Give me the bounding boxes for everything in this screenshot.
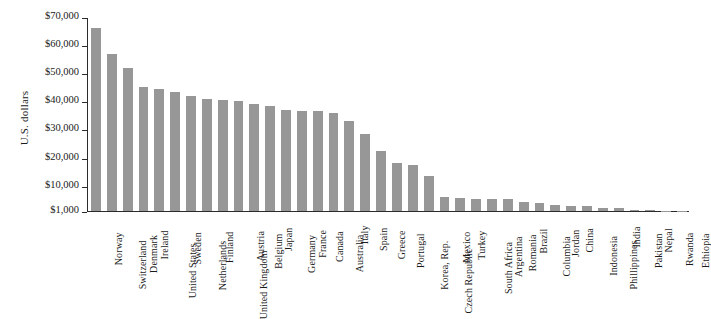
bar [392,163,402,211]
x-axis-label-text: Argentina [513,236,524,277]
y-axis-tick-label: $30,000 [45,122,79,133]
x-axis-label-text: Canada [334,231,345,262]
bar [91,28,101,211]
plot-area: $1,000$10,000$20,000$30,000$40,000$50,00… [87,18,689,212]
bar [471,199,481,211]
y-axis-tick-mark [82,102,87,103]
bar [519,202,529,211]
y-axis-tick-mark [82,74,87,75]
bar [329,113,339,211]
x-axis-label-text: Rwanda [684,233,695,266]
bar [218,100,228,211]
x-axis-label-text: Phillippines [628,240,639,289]
x-axis-label-text: Korea, Rep. [438,241,449,290]
bar [376,151,386,211]
bar [154,89,164,211]
x-axis-label-text: Germany [306,235,317,273]
x-axis-label-text: Norway [113,232,124,265]
y-axis-tick-mark [82,18,87,19]
bar [566,206,576,211]
y-axis-tick-label: $50,000 [45,66,79,77]
x-axis-label-text: Greece [397,230,408,259]
x-axis-label-text: Ireland [159,231,170,260]
bar [550,205,560,211]
x-axis-label-text: Brazil [537,229,548,254]
x-axis-label-text: Spain [378,228,389,251]
x-axis-labels: NorwaySwitzerlandDenmarkIrelandUnited St… [88,214,690,308]
bar [170,92,180,211]
y-axis-title: U.S. dollars [18,0,36,60]
y-axis-tick-label: $40,000 [45,94,79,105]
x-axis-label-text: Japan [283,228,294,251]
x-axis-label-text: Jordan [570,230,581,257]
bar [344,121,354,211]
x-axis-label-text: Indonesia [608,236,619,276]
bar [297,111,307,211]
y-axis-tick-mark [82,46,87,47]
y-axis-tick-mark [82,130,87,131]
bar [645,210,655,211]
bar [249,104,259,211]
bar [186,96,196,211]
bar [234,101,244,211]
y-axis-tick-label: $70,000 [45,10,79,21]
bar [139,87,149,211]
x-axis-label-text: Denmark [148,235,159,273]
y-axis-tick-mark [82,187,87,188]
x-axis-label-text: Finland [223,232,234,263]
y-axis-title-label: U.S. dollars [18,58,30,178]
x-axis-line [87,211,689,212]
bar [503,199,513,211]
x-axis-label-text: Ethiopia [700,233,711,268]
bar [677,211,687,212]
bar [614,208,624,211]
bar [424,176,434,211]
x-axis-label-text: Switzerland [137,240,148,289]
x-axis-label-text: Mexico [461,232,472,263]
bar [440,197,450,211]
bar [535,203,545,211]
bar [313,111,323,211]
bar [598,208,608,211]
x-axis-label-text: India [630,227,641,248]
bar [582,206,592,211]
bar [107,54,117,211]
bar [487,199,497,211]
y-axis-tick-label: $1,000 [50,204,79,215]
bar [455,198,465,211]
x-axis-label-text: Sweden [192,232,203,264]
bar [281,110,291,211]
bar [408,165,418,211]
y-axis-tick-label: $20,000 [45,151,79,162]
x-axis-label-text: China [584,228,595,252]
y-axis-tick-mark [82,159,87,160]
x-axis-label-text: Nepal [664,228,675,252]
bar [661,211,671,212]
y-axis-tick-label: $60,000 [45,38,79,49]
x-axis-label-text: Italy [360,225,371,244]
bar [265,106,275,211]
y-axis-tick-mark [82,212,87,213]
bars-layer [88,18,689,211]
y-axis-tick-label: $10,000 [45,179,79,190]
bar [202,99,212,211]
x-axis-label-text: Portugal [415,233,426,268]
bar [630,210,640,211]
x-axis-label-text: Turkey [476,231,487,260]
bar [360,134,370,211]
x-axis-label-text: France [317,230,328,258]
bar [123,68,133,211]
x-axis-label-text: Austria [255,231,266,261]
